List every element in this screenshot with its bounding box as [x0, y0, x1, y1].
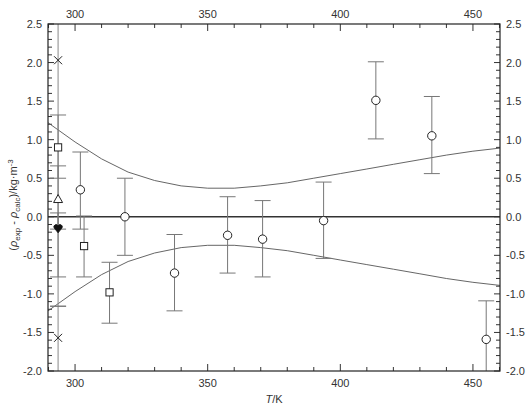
heart-marker [54, 225, 62, 233]
y-tick-label-left: 2.0 [27, 57, 42, 69]
x-tick-label-bottom: 400 [331, 377, 349, 389]
y-tick-label-right: 1.5 [506, 95, 521, 107]
y-tick-label-right: 0.5 [506, 172, 521, 184]
data-markers [54, 56, 491, 343]
y-tick-label-right: 0.0 [506, 211, 521, 223]
x-tick-label-bottom: 300 [66, 377, 84, 389]
x-tick-label-top: 300 [66, 8, 84, 20]
y-tick-label-right: 1.0 [506, 134, 521, 146]
x-tick-label-top: 400 [331, 8, 349, 20]
triangle-marker [54, 195, 63, 203]
circle-marker [372, 96, 380, 104]
y-tick-label-left: 1.0 [27, 134, 42, 146]
circle-marker [170, 269, 178, 277]
circle-marker [482, 335, 490, 343]
reference-lines [48, 24, 500, 371]
square-marker [54, 144, 61, 151]
chart: -2.0-2.0-1.5-1.5-1.0-1.0-0.5-0.50.00.00.… [0, 0, 530, 411]
y-tick-label-left: -2.0 [23, 365, 42, 377]
x-tick-label-bottom: 350 [199, 377, 217, 389]
y-tick-label-right: 2.5 [506, 18, 521, 30]
circle-marker [76, 186, 84, 194]
x-tick-label-bottom: 450 [464, 377, 482, 389]
x-tick-label-top: 350 [199, 8, 217, 20]
y-tick-label-right: 2.0 [506, 57, 521, 69]
circle-marker [428, 132, 436, 140]
y-tick-label-left: 1.5 [27, 95, 42, 107]
x-axis-title: T/K [265, 393, 283, 405]
y-tick-label-left: -1.5 [23, 326, 42, 338]
lower-uncertainty-curve [48, 245, 500, 311]
plot-frame [48, 24, 500, 371]
y-tick-label-left: 0.0 [27, 211, 42, 223]
y-tick-label-left: 2.5 [27, 18, 42, 30]
y-tick-label-left: -0.5 [23, 249, 42, 261]
circle-marker [319, 216, 327, 224]
square-marker [106, 289, 113, 296]
tick-labels: -2.0-2.0-1.5-1.5-1.0-1.0-0.5-0.50.00.00.… [23, 8, 525, 389]
y-tick-label-right: -2.0 [506, 365, 525, 377]
x-tick-label-top: 450 [464, 8, 482, 20]
circle-marker [121, 213, 129, 221]
y-tick-label-left: -1.0 [23, 288, 42, 300]
y-axis-title: (ρexp - ρcalc)/kg·m-3 [6, 159, 22, 251]
y-tick-label-right: -0.5 [506, 249, 525, 261]
circle-marker [258, 235, 266, 243]
axis-ticks [48, 24, 500, 371]
square-marker [80, 242, 87, 249]
y-tick-label-right: -1.5 [506, 326, 525, 338]
y-tick-label-right: -1.0 [506, 288, 525, 300]
svg-text:(ρexp - ρcalc)/kg·m-3: (ρexp - ρcalc)/kg·m-3 [6, 159, 22, 251]
circle-marker [223, 231, 231, 239]
y-tick-label-left: 0.5 [27, 172, 42, 184]
